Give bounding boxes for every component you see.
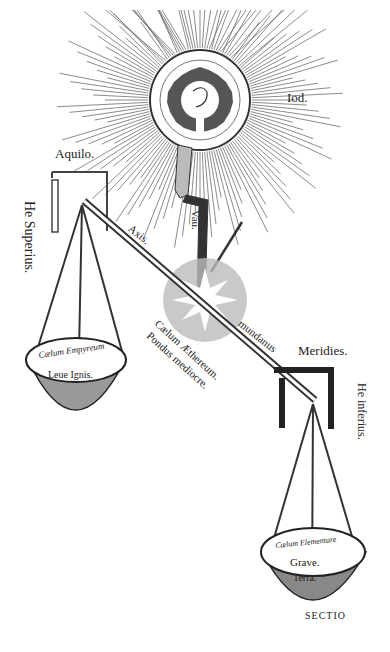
- engraving-art: [0, 0, 390, 652]
- label-he-superius: He Superius.: [22, 201, 36, 273]
- aquilo-frame: [52, 172, 107, 232]
- label-he-inferius: He inferius.: [356, 383, 368, 440]
- label-right-pan-2: Grave.: [290, 557, 320, 568]
- engraving-figure: Iod. Aquilo. He Superius. Vau. Axis. mun…: [0, 0, 390, 652]
- label-right-pan-3: Terra.: [293, 573, 316, 583]
- label-sectio: SECTIO: [305, 611, 346, 621]
- label-vau: Vau.: [190, 210, 201, 230]
- label-left-pan-2: Leue Ignis.: [48, 370, 93, 380]
- label-aquilo: Aquilo.: [55, 147, 94, 160]
- label-meridies: Meridies.: [298, 344, 347, 357]
- label-iod: Iod.: [287, 91, 308, 104]
- sun-icon: [150, 50, 250, 150]
